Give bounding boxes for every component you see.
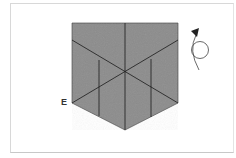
turn-over-arrow-icon	[191, 28, 209, 70]
fold-diagram	[0, 0, 236, 158]
corner-label-e: E	[61, 97, 67, 107]
